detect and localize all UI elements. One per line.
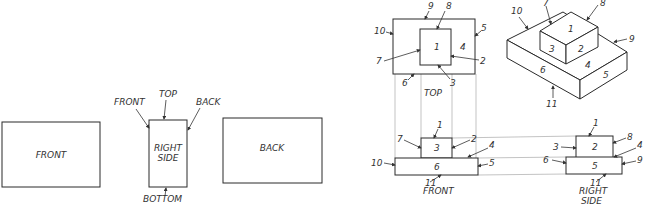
front-arrow-icon	[136, 109, 149, 128]
side-num-5: 5	[592, 161, 598, 171]
top-num-4: 4	[460, 42, 466, 52]
iso-num-8: 8	[600, 0, 606, 8]
top-num-10: 10	[374, 26, 386, 36]
top-arrow-icon	[164, 100, 166, 119]
front-num-5: 5	[489, 158, 495, 168]
arrow-label-bottom: BOTTOM	[143, 194, 182, 204]
side-num-2: 2	[592, 142, 598, 152]
side-view-label-line1: RIGHT	[579, 186, 609, 196]
iso-num-4: 4	[585, 60, 591, 70]
front-num-10: 10	[371, 158, 383, 168]
front-num-7: 7	[397, 134, 403, 144]
front-view-label: FRONT	[423, 186, 455, 196]
iso-num-6: 6	[540, 65, 546, 75]
top-num-9: 9	[428, 1, 434, 11]
top-num-2: 2	[480, 56, 486, 66]
top-view-label: TOP	[424, 88, 443, 98]
side-num-4: 4	[637, 140, 643, 150]
side-num-3: 3	[553, 142, 559, 152]
top-num-8: 8	[446, 1, 452, 11]
top-num-1: 1	[434, 42, 440, 52]
right-side-view: 2 5 1 3 8 4 6 9 11 RIGHT SIDE	[543, 118, 643, 206]
iso-num-11: 11	[546, 99, 557, 109]
top-num-3: 3	[450, 78, 456, 88]
right-side-label-line1: RIGHT	[154, 143, 184, 153]
orthographic-views-diagram: FRONT RIGHT SIDE BACK FRONT TOP BACK BOT…	[0, 0, 647, 215]
arrow-label-top: TOP	[159, 89, 178, 99]
back-arrow-icon	[188, 108, 200, 130]
top-num-5: 5	[481, 23, 487, 33]
right-side-label-line2: SIDE	[158, 153, 179, 163]
iso-num-3: 3	[549, 44, 555, 54]
iso-num-1: 1	[568, 24, 574, 34]
front-view-box: FRONT	[2, 122, 100, 187]
front-num-1: 1	[437, 120, 443, 130]
side-view-label-line2: SIDE	[581, 196, 602, 206]
side-num-8: 8	[627, 132, 633, 142]
iso-num-5: 5	[603, 70, 609, 80]
side-num-1: 1	[593, 118, 599, 128]
back-label: BACK	[260, 143, 286, 153]
right-side-view-box: RIGHT SIDE	[149, 120, 187, 187]
front-num-4: 4	[489, 140, 495, 150]
side-num-9: 9	[637, 155, 643, 165]
side-num-6: 6	[543, 155, 549, 165]
top-view: 1 4 9 8 10 5 7 2 6 3 TOP	[374, 1, 487, 98]
top-num-7: 7	[376, 56, 382, 66]
iso-num-9: 9	[629, 34, 635, 44]
iso-num-2: 2	[578, 44, 584, 54]
front-num-6: 6	[434, 162, 440, 172]
isometric-view: 1 3 2 4 6 5 10 7 8 9 11	[507, 0, 635, 109]
arrow-label-front: FRONT	[114, 97, 146, 107]
back-view-box: BACK	[223, 118, 322, 183]
front-label: FRONT	[36, 150, 68, 160]
iso-num-10: 10	[511, 6, 523, 16]
front-num-2: 2	[471, 134, 477, 144]
top-num-6: 6	[402, 78, 408, 88]
front-view: 3 6 1 7 2 4 10 5 11 FRONT	[371, 120, 495, 196]
arrow-label-back: BACK	[196, 97, 222, 107]
front-num-3: 3	[434, 143, 440, 153]
